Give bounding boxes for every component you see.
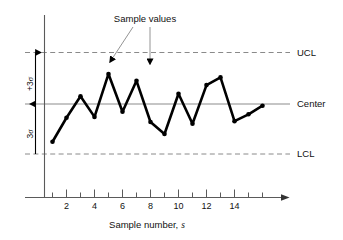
x-tick-label-12: 12 — [201, 201, 211, 211]
upper-sigma-label: +3σ — [25, 76, 35, 91]
x-axis-title-italic: s — [181, 220, 185, 230]
data-point — [204, 83, 209, 88]
data-point — [190, 121, 195, 126]
data-point — [120, 109, 125, 114]
x-axis-title: Sample number,s — [109, 219, 185, 230]
data-point — [232, 119, 237, 124]
data-point — [246, 112, 251, 117]
data-point — [106, 72, 111, 77]
svg-text:Sample number,s: Sample number,s — [109, 219, 185, 230]
center-label: Center — [297, 98, 326, 109]
lcl-label: LCL — [297, 148, 314, 159]
data-point — [50, 139, 55, 144]
x-tick-label-8: 8 — [148, 201, 153, 211]
x-tick-label-6: 6 — [120, 201, 125, 211]
x-tick-label-14: 14 — [229, 201, 239, 211]
x-tick-label-10: 10 — [173, 201, 183, 211]
x-tick-label-4: 4 — [92, 201, 97, 211]
lower-sigma-label: 3σ — [25, 129, 35, 139]
x-axis-title-main: Sample number, — [109, 219, 178, 230]
sample-values-label: Sample values — [114, 13, 177, 24]
control-chart-svg: 2 4 6 8 10 12 14 Sample number,s +3σ 3σ — [0, 0, 343, 240]
data-point — [78, 94, 83, 99]
data-point — [134, 79, 139, 84]
chart-background — [0, 0, 343, 240]
data-point — [64, 115, 69, 120]
upper-sigma-number: +3 — [25, 81, 35, 91]
data-point — [176, 91, 181, 96]
data-point — [218, 75, 223, 80]
control-chart: 2 4 6 8 10 12 14 Sample number,s +3σ 3σ — [0, 0, 343, 240]
data-point — [148, 120, 153, 125]
data-point — [260, 103, 265, 108]
ucl-label: UCL — [297, 47, 316, 58]
x-tick-label-2: 2 — [64, 201, 69, 211]
data-point — [162, 132, 167, 137]
data-point — [92, 115, 97, 120]
